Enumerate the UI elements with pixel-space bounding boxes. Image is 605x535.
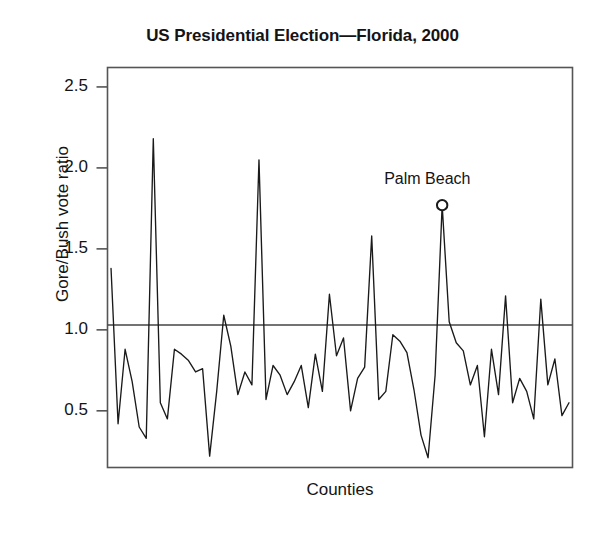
chart-figure: US Presidential Election—Florida, 2000 G…: [0, 0, 605, 535]
data-series-line: [111, 139, 569, 458]
axis-frame: [108, 68, 573, 468]
palm-beach-marker[interactable]: [437, 200, 447, 210]
plot-frame: [108, 68, 573, 468]
plot-area: [0, 0, 605, 535]
palm-beach-annotation-label: Palm Beach: [384, 170, 470, 188]
y-axis-ticks: [97, 87, 108, 411]
